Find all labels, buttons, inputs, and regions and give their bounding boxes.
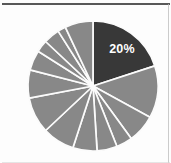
pie-chart: 20% — [0, 0, 171, 163]
pie-slice-group — [28, 21, 158, 151]
pie-slice-data-label: 20% — [109, 42, 135, 56]
figure-frame: 20% — [0, 0, 171, 163]
